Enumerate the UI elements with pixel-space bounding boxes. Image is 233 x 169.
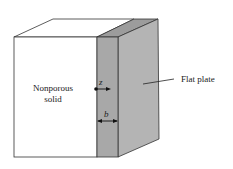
solid-label-line2: solid bbox=[44, 94, 62, 104]
thickness-label: b bbox=[104, 109, 109, 119]
diagram-canvas: z b Nonporous solid Flat plate bbox=[0, 0, 233, 169]
plate-side-face bbox=[118, 19, 159, 157]
solid-label-line1: Nonporous bbox=[33, 83, 73, 93]
z-axis-label: z bbox=[98, 77, 103, 87]
plate-front-face bbox=[97, 37, 118, 157]
plate-label: Flat plate bbox=[181, 74, 215, 84]
